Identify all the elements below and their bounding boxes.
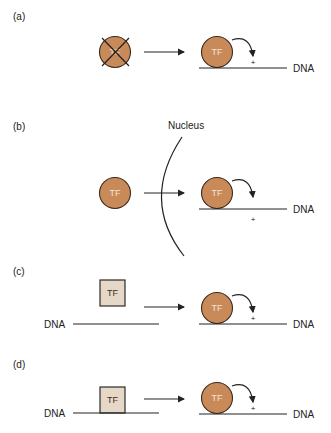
tf-text: TF (212, 47, 223, 57)
panel-label-d: (d) (13, 359, 25, 370)
tf-text: TF (107, 395, 118, 405)
panel-label-a: (a) (13, 11, 25, 22)
activation-sign: + (251, 314, 256, 323)
left-dna-label: DNA (44, 319, 65, 330)
bound-tf-circle: TF (202, 178, 233, 209)
bound-tf-circle: TF (202, 37, 233, 68)
panel-label-b: (b) (13, 121, 25, 132)
activation-sign: + (251, 404, 256, 413)
tf-text: TF (212, 393, 223, 403)
activation-arrow-icon (232, 39, 253, 56)
left-dna-label: DNA (44, 408, 65, 419)
panel-d: (d) TF DNA TF + DNA (13, 359, 314, 420)
tf-circle: TF (100, 178, 131, 209)
activation-sign: + (251, 215, 256, 224)
tf-text: TF (212, 303, 223, 313)
dna-label: DNA (293, 409, 314, 420)
activation-sign: + (251, 58, 256, 67)
panel-label-c: (c) (13, 266, 25, 277)
panel-b: (b) Nucleus TF TF + DNA (13, 120, 314, 256)
dna-label: DNA (293, 204, 314, 215)
nuclear-membrane (161, 137, 184, 256)
nucleus-label: Nucleus (168, 120, 204, 131)
tf-square-bound: TF (100, 387, 125, 413)
activation-arrow-icon (232, 295, 253, 312)
activation-arrow-icon (232, 180, 253, 197)
panel-a: (a) TF TF + DNA (13, 11, 314, 74)
activation-arrow-icon (232, 385, 253, 402)
bound-tf-circle: TF (202, 293, 233, 324)
dna-label: DNA (293, 63, 314, 74)
inactive-tf-circle: TF (100, 37, 131, 68)
tf-text: TF (110, 188, 121, 198)
bound-tf-circle: TF (202, 383, 233, 414)
panel-c: (c) TF DNA TF + DNA (13, 266, 314, 330)
transcription-factor-diagram: (a) TF TF + DNA (b) Nucleus TF TF (0, 0, 331, 433)
tf-text: TF (212, 188, 223, 198)
dna-label: DNA (293, 319, 314, 330)
tf-text: TF (107, 288, 118, 298)
tf-square-unbound: TF (100, 280, 125, 306)
